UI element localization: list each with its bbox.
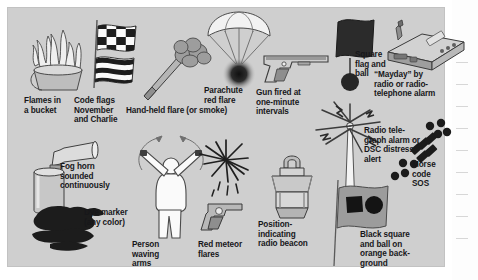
signal-label-red-meteor-flares: Red meteor flares xyxy=(198,240,258,259)
signal-label-hand-held-flare: Hand-held flare (or smoke) xyxy=(126,106,230,116)
distress-signals-figure: Flames in a bucket xyxy=(0,0,478,280)
vhf-radio-icon xyxy=(382,18,468,76)
signal-label-morse-code-sos: Morse code SOS xyxy=(412,160,454,189)
signal-label-mayday-radio: “Mayday” by radio or radio- telephone al… xyxy=(374,70,452,99)
signal-label-fog-horn: Fog horn sounded continuously xyxy=(60,162,128,191)
signal-label-epirb: Position- indicating radio beacon xyxy=(258,220,334,249)
signal-label-black-square-and-ball: Black square and ball on orange back- gr… xyxy=(360,230,434,268)
signal-label-person-waving-arms: Person waving arms xyxy=(132,240,184,269)
chart-panel: Flames in a bucket xyxy=(8,8,444,266)
